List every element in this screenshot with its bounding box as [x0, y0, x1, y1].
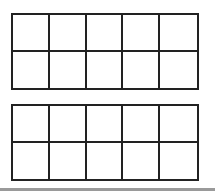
frame-cell — [123, 52, 160, 89]
frame-cell — [160, 15, 197, 52]
frame-cell — [87, 15, 124, 52]
frame-cell — [87, 106, 124, 143]
frame-cell — [13, 52, 50, 89]
frame-cell — [87, 52, 124, 89]
frame-cell — [50, 143, 87, 180]
frame-cell — [50, 15, 87, 52]
frame-cell — [123, 143, 160, 180]
ten-frame-1 — [11, 13, 199, 90]
frame-cell — [123, 106, 160, 143]
frame-cell — [160, 143, 197, 180]
frame-cell — [87, 143, 124, 180]
frame-cell — [13, 15, 50, 52]
frame-cell — [50, 106, 87, 143]
frame-cell — [123, 15, 160, 52]
bottom-rule — [0, 188, 215, 191]
frame-cell — [50, 52, 87, 89]
ten-frame-2 — [11, 104, 199, 181]
frame-cell — [13, 143, 50, 180]
frame-cell — [160, 106, 197, 143]
frame-cell — [13, 106, 50, 143]
frame-cell — [160, 52, 197, 89]
